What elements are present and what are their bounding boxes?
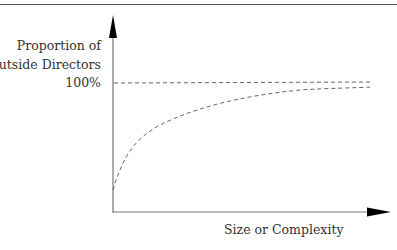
- y-axis-arrowhead-icon: [109, 15, 117, 38]
- y-tick-100-label: 100%: [65, 75, 101, 90]
- y-axis-label-line2: Outside Directors: [0, 55, 101, 74]
- y-axis-label-line1: Proportion of: [0, 36, 101, 55]
- y-axis-label: Proportion of Outside Directors: [0, 36, 101, 74]
- x-axis-label: Size or Complexity: [224, 222, 343, 237]
- proportion-curve: [113, 87, 372, 190]
- x-axis-arrowhead-icon: [367, 208, 391, 217]
- reference-line-100: [114, 82, 373, 83]
